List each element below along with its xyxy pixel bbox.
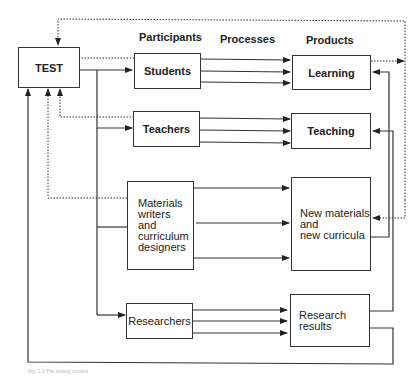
header-processes: Processes [220, 33, 275, 45]
header-participants: Participants [139, 31, 202, 43]
node-research-results: Research results [290, 294, 370, 347]
node-new-materials: New materials and new curricula [291, 177, 371, 271]
node-research-results-line-1: Research [299, 310, 346, 321]
node-students: Students [134, 53, 201, 89]
figure-caption: Fig. 1.1 The testing context [28, 368, 88, 374]
node-research-results-line-2: results [299, 321, 346, 332]
node-test: TEST [18, 47, 80, 88]
node-materials-line-5: designers [138, 242, 189, 253]
node-teachers-label: Teachers [143, 123, 191, 135]
node-students-label: Students [144, 65, 191, 77]
node-teaching: Teaching [291, 113, 371, 149]
node-materials-writers: Materials writers and curriculum designe… [127, 181, 194, 270]
node-test-label: TEST [35, 62, 63, 74]
node-new-materials-line-2: and [300, 219, 370, 230]
node-learning: Learning [292, 55, 371, 90]
node-new-materials-line-3: new curricula [300, 230, 370, 241]
node-learning-label: Learning [308, 67, 354, 79]
node-teachers: Teachers [133, 111, 200, 147]
node-researchers: Researchers [126, 303, 193, 339]
node-teaching-label: Teaching [307, 125, 354, 137]
node-researchers-label: Researchers [128, 315, 190, 327]
header-products: Products [306, 34, 354, 46]
node-new-materials-line-1: New materials [300, 208, 370, 219]
